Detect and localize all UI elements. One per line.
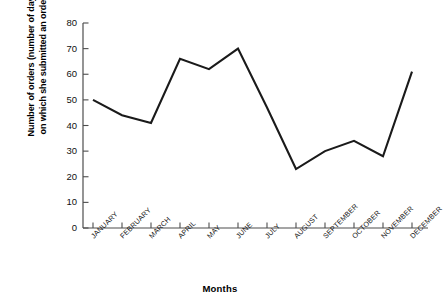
y-tick-label: 60 [51,68,77,79]
y-tick-marks [83,23,89,228]
y-tick-label: 80 [51,17,77,28]
y-tick-label: 40 [51,120,77,131]
y-tick-label: 50 [51,94,77,105]
y-axis [83,23,89,228]
y-tick-label: 20 [51,171,77,182]
data-series-line [93,49,412,169]
y-tick-label: 30 [51,145,77,156]
y-tick-label: 0 [51,222,77,233]
y-tick-label: 70 [51,43,77,54]
y-tick-label: 10 [51,196,77,207]
